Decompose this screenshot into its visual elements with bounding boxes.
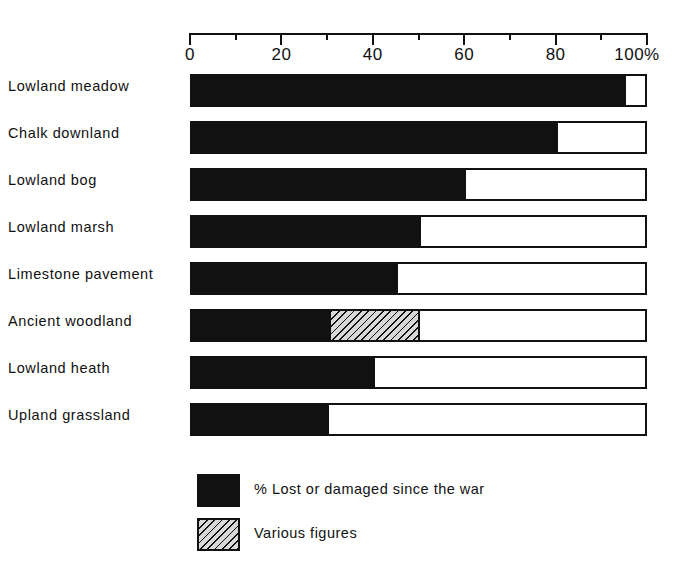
bar-track	[190, 121, 647, 154]
legend-swatch-solid-black-icon	[197, 474, 240, 507]
bar-track	[190, 168, 647, 201]
bar-row: Lowland marsh	[0, 215, 688, 248]
bar-segment-lost	[192, 123, 558, 152]
legend-swatch-hatched-icon	[197, 518, 240, 551]
bar-row-label: Upland grassland	[8, 407, 180, 423]
x-tick-label: 60	[454, 45, 474, 65]
bar-segment-lost	[192, 217, 421, 246]
bar-row: Upland grassland	[0, 403, 688, 436]
x-tick-major	[372, 33, 374, 45]
x-tick-major	[463, 33, 465, 45]
bar-track	[190, 262, 647, 295]
bar-track	[190, 356, 647, 389]
x-tick-minor	[509, 33, 511, 40]
habitat-loss-bar-chart: 020406080100% Lowland meadowChalk downla…	[0, 0, 688, 573]
bar-segment-lost	[192, 358, 375, 387]
x-tick-minor	[418, 33, 420, 40]
bar-track	[190, 309, 647, 342]
x-tick-minor	[235, 33, 237, 40]
x-tick-label: 40	[363, 45, 383, 65]
bar-row-label: Lowland heath	[8, 360, 180, 376]
bar-segment-lost	[192, 405, 329, 434]
x-tick-label: 80	[546, 45, 566, 65]
x-tick-label: 20	[271, 45, 291, 65]
bar-row-label: Lowland bog	[8, 172, 180, 188]
bar-row: Lowland meadow	[0, 74, 688, 107]
bar-track	[190, 403, 647, 436]
x-tick-minor	[600, 33, 602, 40]
bar-segment-various	[329, 311, 420, 340]
bar-row-label: Lowland meadow	[8, 78, 180, 94]
x-tick-label: 0	[185, 45, 195, 65]
bar-segment-lost	[192, 264, 398, 293]
bar-segment-lost	[192, 170, 466, 199]
bar-row: Ancient woodland	[0, 309, 688, 342]
bar-row-label: Lowland marsh	[8, 219, 180, 235]
x-tick-major	[646, 33, 648, 45]
legend-label-various: Various figures	[254, 525, 357, 541]
bar-segment-lost	[192, 311, 329, 340]
legend-label-lost: % Lost or damaged since the war	[254, 481, 485, 497]
bar-segment-lost	[192, 76, 626, 105]
x-axis: 020406080100%	[190, 33, 647, 34]
x-tick-major	[189, 33, 191, 45]
x-tick-minor	[326, 33, 328, 40]
x-tick-major	[280, 33, 282, 45]
bar-track	[190, 215, 647, 248]
x-tick-major	[555, 33, 557, 45]
bar-row-label: Ancient woodland	[8, 313, 180, 329]
bar-row: Lowland bog	[0, 168, 688, 201]
x-tick-label: 100%	[614, 45, 659, 65]
bar-row-label: Limestone pavement	[8, 266, 180, 282]
bar-row: Lowland heath	[0, 356, 688, 389]
bar-row: Chalk downland	[0, 121, 688, 154]
bar-row-label: Chalk downland	[8, 125, 180, 141]
bar-track	[190, 74, 647, 107]
bar-row: Limestone pavement	[0, 262, 688, 295]
